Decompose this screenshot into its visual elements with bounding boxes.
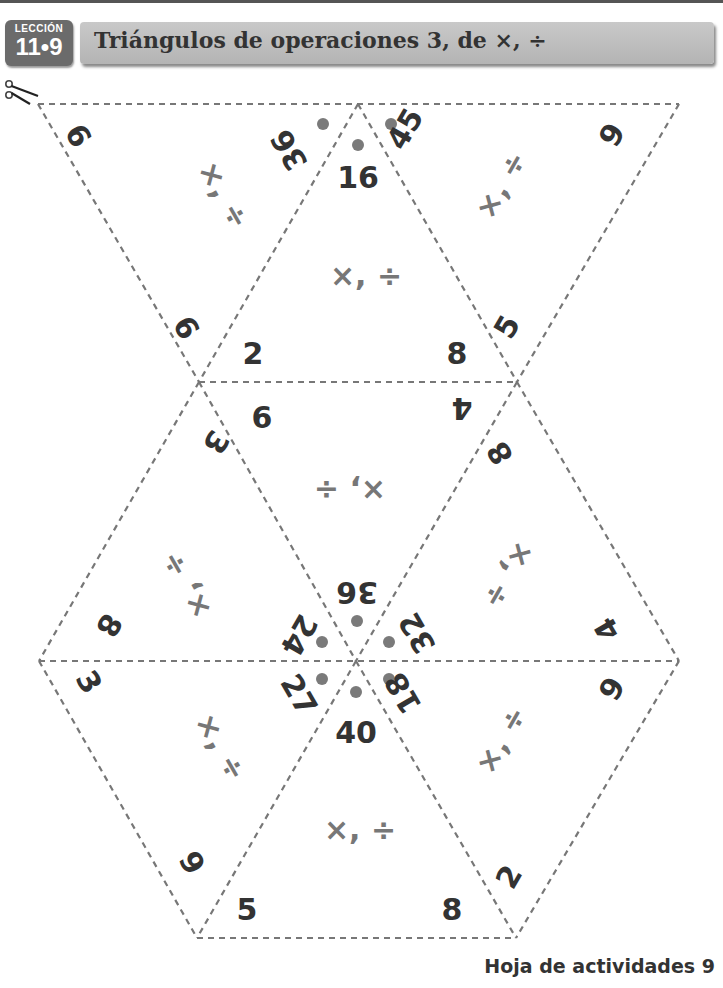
triangle-top-left: 36 9 9 ×, ÷ <box>59 117 315 345</box>
operations-label: ×, ÷ <box>314 473 386 508</box>
product-number: 24 <box>274 608 325 662</box>
corner-number: 2 <box>243 336 264 371</box>
triangle-sheet: 36 9 9 ×, ÷ 16 2 8 ×, ÷ 45 9 5 ×, ÷ 24 3… <box>0 0 723 988</box>
product-number: 45 <box>379 102 430 156</box>
corner-number: 8 <box>89 607 130 643</box>
triangle-bottom-right: 18 9 2 ×, ÷ <box>377 666 632 894</box>
operations-label: ×, ÷ <box>153 545 219 625</box>
triangle-top-center: 16 2 8 ×, ÷ <box>243 160 468 371</box>
corner-number: 6 <box>252 400 273 435</box>
triangle-bottom-center: 40 5 8 ×, ÷ <box>237 715 463 927</box>
corner-number: 2 <box>489 859 530 895</box>
corner-number: 5 <box>487 309 528 345</box>
operations-label: ×, ÷ <box>468 145 534 225</box>
corner-number: 8 <box>442 892 463 927</box>
triangle-middle-right: 32 8 4 ×, ÷ <box>391 435 627 660</box>
product-number: 36 <box>263 123 314 177</box>
product-number: 40 <box>335 715 377 750</box>
corner-number: 4 <box>587 611 628 647</box>
operations-label: ×, ÷ <box>468 700 534 780</box>
corner-number: 4 <box>452 391 473 426</box>
corner-number: 9 <box>167 309 208 345</box>
triangle-middle-left: 24 3 8 ×, ÷ <box>89 424 325 662</box>
corner-number: 9 <box>592 117 633 153</box>
corner-number: 9 <box>172 845 213 881</box>
operations-label: ×, ÷ <box>191 155 257 235</box>
product-number: 36 <box>336 575 378 610</box>
triangle-bottom-left: 27 3 9 ×, ÷ <box>69 664 325 881</box>
operations-label: ×, ÷ <box>476 535 542 615</box>
product-number: 32 <box>391 606 442 660</box>
corner-number: 3 <box>196 424 237 460</box>
corner-number: 9 <box>59 117 100 153</box>
corner-number: 3 <box>69 664 110 700</box>
corner-number: 5 <box>237 892 258 927</box>
operations-label: ×, ÷ <box>188 707 254 787</box>
triangle-middle-center: 36 6 4 ×, ÷ <box>252 391 473 610</box>
product-number: 16 <box>337 160 379 195</box>
corner-number: 8 <box>480 435 521 471</box>
activity-sheet-label: Hoja de actividades 9 <box>484 955 715 977</box>
operations-label: ×, ÷ <box>324 812 396 847</box>
operations-label: ×, ÷ <box>330 258 402 293</box>
triangle-top-right: 45 9 5 ×, ÷ <box>379 102 632 345</box>
corner-number: 8 <box>447 336 468 371</box>
corner-number: 9 <box>592 671 633 707</box>
